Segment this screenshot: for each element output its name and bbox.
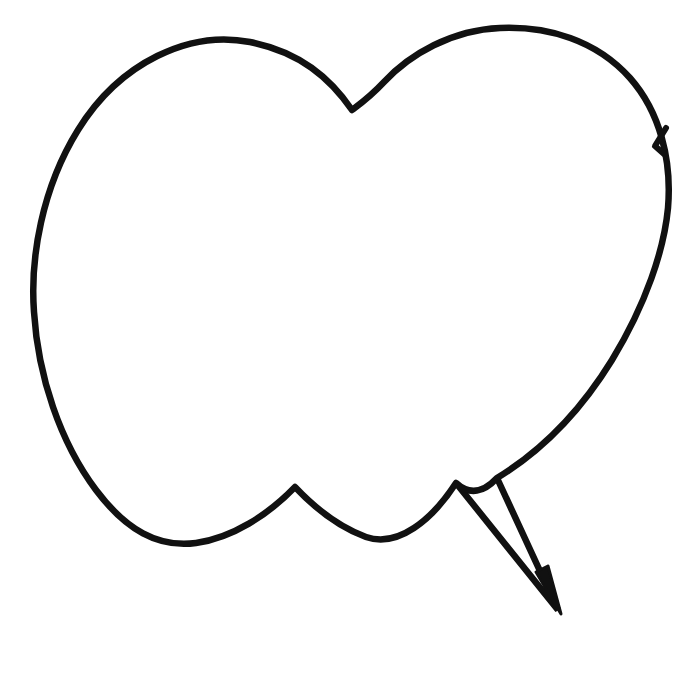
- drawing-canvas: [0, 0, 698, 687]
- speech-bubble-illustration: [0, 0, 698, 687]
